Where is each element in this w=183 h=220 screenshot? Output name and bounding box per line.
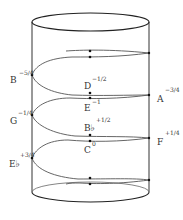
cylinder-bottom-front-arc	[32, 192, 149, 202]
label-E: E	[84, 104, 91, 113]
label-F: F	[157, 138, 163, 147]
label-B-exponent: −5/4	[19, 70, 34, 76]
cylinder-top-ellipse	[32, 13, 149, 31]
helix-curve	[32, 50, 149, 184]
dot-bottom-right	[148, 179, 150, 181]
label-Eb: E♭	[9, 160, 20, 169]
dot-bottom-2	[89, 183, 92, 186]
node-dots	[31, 50, 151, 186]
dot-E	[89, 97, 92, 100]
dot-top-1	[89, 50, 92, 53]
dot-D	[89, 92, 92, 95]
label-A: A	[157, 95, 164, 104]
dot-Bb	[89, 134, 92, 137]
dot-top-right	[148, 52, 150, 54]
helix-cylinder-diagram: B −5/4 D −1/2 A −3/4 E −1 G −1/4 B♭ +1/2…	[0, 0, 183, 220]
label-B: B	[10, 76, 17, 85]
dot-C	[89, 140, 92, 143]
label-E-exponent: −1	[92, 99, 101, 105]
label-G-exponent: −1/4	[18, 110, 33, 116]
label-Bb: B♭	[84, 124, 95, 133]
dot-A	[148, 94, 150, 96]
label-C: C	[84, 146, 91, 155]
label-C-exponent: 0	[92, 141, 96, 147]
label-Eb-exponent: +3/4	[20, 152, 35, 158]
dot-top-2	[89, 56, 92, 59]
label-G: G	[10, 117, 17, 126]
label-Bb-exponent: +1/2	[96, 117, 111, 123]
dot-bottom-1	[89, 177, 92, 180]
label-D-exponent: −1/2	[92, 76, 107, 82]
label-A-exponent: −3/4	[165, 87, 180, 93]
label-D: D	[84, 82, 91, 91]
dot-F	[148, 137, 150, 139]
label-F-exponent: +1/4	[165, 130, 180, 136]
